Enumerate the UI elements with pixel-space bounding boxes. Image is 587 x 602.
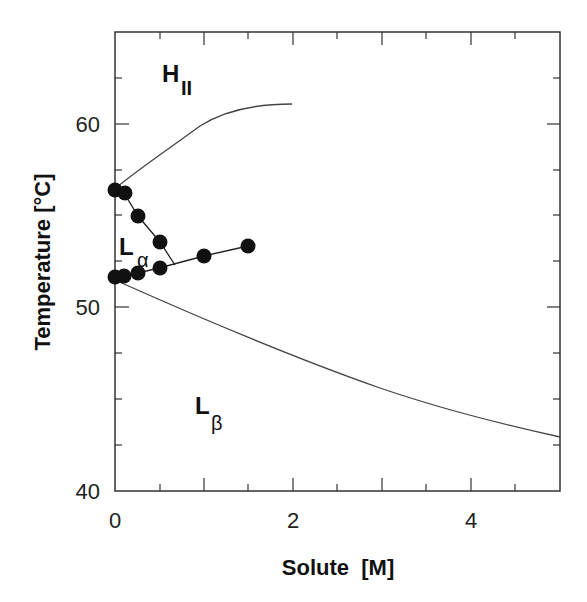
- y-tick-label-50: 50: [76, 295, 100, 320]
- x-tick-label-4: 4: [465, 508, 477, 533]
- x-tick-label-0: 0: [109, 508, 121, 533]
- x-tick-label-2: 2: [287, 508, 299, 533]
- phase-label-lalpha: L: [119, 233, 134, 260]
- phase-label-lbeta: L: [195, 392, 210, 419]
- phase-label-lbeta-subscript: β: [211, 412, 223, 434]
- y-tick-label-40: 40: [76, 479, 100, 504]
- phase-label-hii: H: [162, 60, 179, 87]
- phase-label-lalpha-subscript: α: [137, 249, 149, 271]
- phase-diagram: 0 2 4 40 50 60 Solute [M] Temperature [°…: [0, 0, 587, 602]
- lbeta-boundary-curve: [115, 280, 560, 437]
- y-tick-label-60: 60: [76, 112, 100, 137]
- hii-boundary-curve: [117, 104, 292, 187]
- y-axis-title: Temperature [°C]: [30, 173, 55, 350]
- phase-label-hii-subscript: II: [181, 77, 192, 99]
- x-axis-title: Solute [M]: [282, 555, 394, 580]
